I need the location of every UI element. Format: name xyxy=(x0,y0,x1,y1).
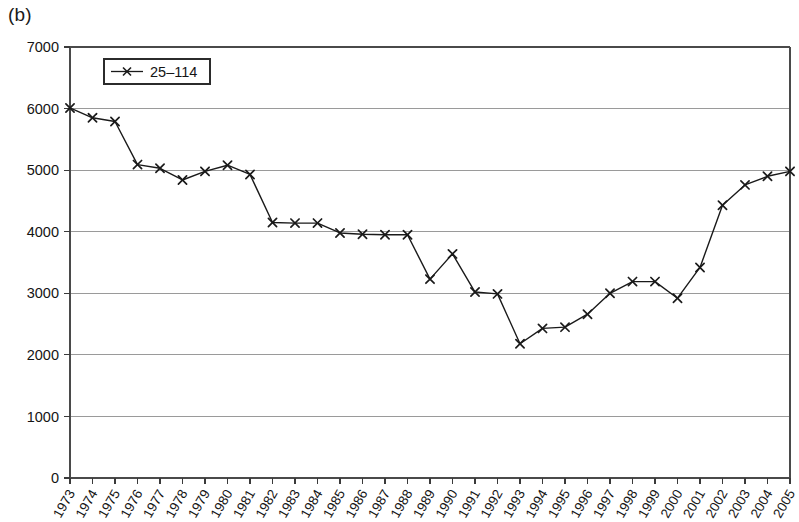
x-axis-tick-label: 1993 xyxy=(500,487,528,521)
y-axis-tick-label: 3000 xyxy=(27,285,59,301)
x-axis-tick-label: 1974 xyxy=(73,487,101,521)
x-axis-tick-marks xyxy=(70,478,790,484)
x-axis-tick-label: 1995 xyxy=(545,487,573,521)
x-axis-tick-label: 1981 xyxy=(230,487,258,521)
x-axis-tick-label: 2003 xyxy=(725,487,753,521)
y-axis-tick-label: 5000 xyxy=(27,162,59,178)
x-axis-tick-label: 1980 xyxy=(208,487,236,521)
x-axis-tick-label: 1984 xyxy=(298,487,326,521)
x-axis-tick-label: 1977 xyxy=(140,487,168,521)
x-axis-tick-label: 1985 xyxy=(320,487,348,521)
x-axis-tick-label: 1999 xyxy=(635,487,663,521)
x-axis-tick-label: 1992 xyxy=(478,487,506,521)
x-axis-tick-label: 1976 xyxy=(118,487,146,521)
y-axis-tick-label: 6000 xyxy=(27,101,59,117)
x-axis-tick-label: 1989 xyxy=(410,487,438,521)
y-axis-tick-label: 7000 xyxy=(27,39,59,55)
plot-background xyxy=(70,47,790,478)
x-axis-tick-label: 2002 xyxy=(703,487,731,521)
x-axis-tick-label: 2001 xyxy=(680,487,708,521)
x-axis-tick-label: 1973 xyxy=(50,487,78,521)
x-axis-tick-label: 1978 xyxy=(163,487,191,521)
x-axis-tick-labels: 1973197419751976197719781979198019811982… xyxy=(50,487,798,521)
y-axis-tick-label: 2000 xyxy=(27,347,59,363)
x-axis-tick-label: 1986 xyxy=(343,487,371,521)
x-axis-tick-label: 1988 xyxy=(388,487,416,521)
x-axis-tick-label: 1991 xyxy=(455,487,483,521)
x-axis-tick-label: 1994 xyxy=(523,487,551,521)
line-chart: 01000200030004000500060007000 1973197419… xyxy=(0,0,799,522)
x-axis-tick-label: 2004 xyxy=(748,487,776,521)
y-axis-tick-label: 1000 xyxy=(27,409,59,425)
figure-panel-b: (b) 01000200030004000500060007000 197319… xyxy=(0,0,799,522)
chart-legend: 25–114 xyxy=(104,59,210,84)
x-axis-tick-label: 1982 xyxy=(253,487,281,521)
legend-entry-label: 25–114 xyxy=(150,64,197,80)
x-axis-tick-label: 1979 xyxy=(185,487,213,521)
x-axis-tick-label: 1987 xyxy=(365,487,393,521)
y-axis-tick-labels: 01000200030004000500060007000 xyxy=(27,39,59,486)
y-axis-tick-label: 4000 xyxy=(27,224,59,240)
x-axis-tick-label: 1990 xyxy=(433,487,461,521)
x-axis-tick-label: 1997 xyxy=(590,487,618,521)
x-axis-tick-label: 1975 xyxy=(95,487,123,521)
x-axis-tick-label: 1998 xyxy=(613,487,641,521)
x-axis-tick-label: 2000 xyxy=(658,487,686,521)
y-axis-tick-label: 0 xyxy=(51,470,59,486)
x-axis-tick-label: 2005 xyxy=(770,487,798,521)
x-axis-tick-label: 1996 xyxy=(568,487,596,521)
x-axis-tick-label: 1983 xyxy=(275,487,303,521)
